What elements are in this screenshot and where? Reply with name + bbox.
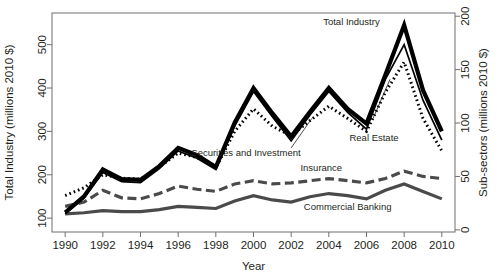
y2-axis-tick-label: 50 xyxy=(459,170,471,183)
x-axis-tick-label: 1998 xyxy=(203,239,229,251)
x-axis-tick-label: 2008 xyxy=(391,239,417,251)
series-label-commercial-banking: Commercial Banking xyxy=(304,201,392,212)
y-axis-tick-label: 100 xyxy=(36,209,48,228)
x-axis-tick-label: 1996 xyxy=(165,239,191,251)
y2-axis-tick-label: 0 xyxy=(459,227,471,233)
x-axis-tick-label: 1992 xyxy=(90,239,116,251)
series-line-securities-and-investment xyxy=(65,62,442,196)
x-axis-tick-label: 1994 xyxy=(128,239,154,251)
series-line-total-industry xyxy=(65,25,442,212)
y2-axis-title: Sub-sectors (millions 2010 $) xyxy=(477,48,489,197)
series-label-real-estate: Real Estate xyxy=(349,132,398,143)
y2-axis-tick-label: 150 xyxy=(459,60,471,79)
y2-axis-tick-label: 100 xyxy=(459,113,471,132)
series-label-securities-and-investment: Securities and Investment xyxy=(191,147,301,158)
series-label-insurance: Insurance xyxy=(300,162,342,173)
x-axis-tick-label: 2000 xyxy=(241,239,267,251)
line-chart: 1002003004005000501001502001990199219941… xyxy=(0,0,499,276)
x-axis-title: Year xyxy=(242,260,265,272)
y-axis-tick-label: 500 xyxy=(36,35,48,54)
x-axis-tick-label: 2010 xyxy=(429,239,455,251)
chart-figure: 1002003004005000501001502001990199219941… xyxy=(0,0,499,276)
series-label-total-industry: Total Industry xyxy=(323,16,380,27)
x-axis-tick-label: 2006 xyxy=(354,239,380,251)
y-axis-title: Total Industry (millions 2010 $) xyxy=(3,44,15,200)
x-axis-tick-label: 2004 xyxy=(316,239,342,251)
y2-axis-tick-label: 200 xyxy=(459,7,471,26)
y-axis-tick-label: 200 xyxy=(36,165,48,184)
y-axis-tick-label: 300 xyxy=(36,122,48,141)
y-axis-tick-label: 400 xyxy=(36,78,48,97)
x-axis-tick-label: 2002 xyxy=(278,239,304,251)
x-axis-tick-label: 1990 xyxy=(52,239,78,251)
